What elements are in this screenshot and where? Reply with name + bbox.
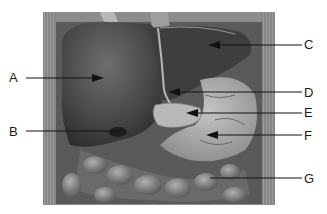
gallbladder <box>109 127 127 137</box>
label-c: C <box>304 38 313 51</box>
label-a: A <box>9 71 18 84</box>
abdominal-organs-diagram <box>0 0 327 214</box>
label-f: F <box>304 129 312 142</box>
label-b: B <box>9 125 18 138</box>
label-e: E <box>304 106 313 119</box>
label-g: G <box>304 172 314 185</box>
label-d: D <box>304 86 313 99</box>
